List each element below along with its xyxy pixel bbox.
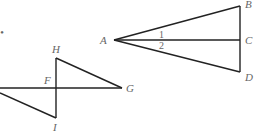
triangle-abd [114, 6, 240, 72]
label-d: D [244, 71, 253, 83]
bowtie-figure [0, 58, 122, 118]
label-a: A [99, 34, 107, 46]
angle-2-label: 2 [159, 40, 164, 51]
geometry-diagram: • A B C D 1 2 H F G I [0, 0, 259, 135]
segment-ad [114, 40, 240, 72]
label-b: B [245, 0, 252, 10]
edge-fragment-text: • [0, 26, 4, 38]
label-f: F [43, 74, 51, 86]
segment-i-left [0, 93, 56, 118]
angle-1-label: 1 [159, 29, 164, 40]
label-i: I [52, 121, 58, 133]
segment-ab [114, 6, 240, 40]
label-h: H [51, 43, 61, 55]
label-c: C [245, 34, 253, 46]
segment-hg [56, 58, 122, 88]
label-g: G [126, 82, 134, 94]
